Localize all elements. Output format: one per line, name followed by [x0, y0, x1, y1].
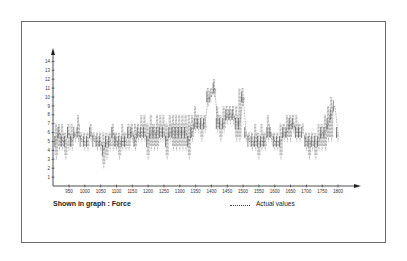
x-tick-label: 1200: [143, 189, 154, 194]
chart-caption: Shown in graph : Force: [53, 200, 131, 207]
x-tick-label: 1550: [254, 189, 265, 194]
y-tick-label: 11: [45, 86, 50, 91]
y-axis-arrow-icon: [51, 48, 55, 55]
y-tick-label: 9: [47, 104, 50, 109]
x-tick-label: 1750: [317, 189, 328, 194]
force-chart: 1234567891011121314950100010501100115012…: [0, 0, 407, 261]
y-tick-label: 10: [45, 95, 51, 100]
x-tick-label: 1700: [301, 189, 312, 194]
x-tick-label: 1450: [222, 189, 233, 194]
x-tick-label: 1050: [96, 189, 107, 194]
x-tick-label: 1100: [112, 189, 122, 194]
y-tick-label: 12: [45, 77, 51, 82]
x-tick-label: 1150: [127, 189, 137, 194]
x-tick-label: 950: [65, 189, 73, 194]
x-tick-label: 1000: [80, 189, 91, 194]
y-tick-label: 14: [45, 59, 51, 64]
x-tick-label: 1250: [159, 189, 170, 194]
x-tick-label: 1650: [286, 189, 297, 194]
y-tick-label: 13: [45, 68, 51, 73]
y-tick-label: 7: [47, 121, 50, 126]
x-tick-label: 1350: [191, 189, 202, 194]
legend-label: Actual values: [256, 200, 295, 207]
y-tick-label: 6: [47, 130, 50, 135]
x-tick-label: 1400: [206, 189, 217, 194]
chart-legend: Actual values: [230, 200, 295, 207]
y-tick-label: 2: [47, 166, 50, 171]
y-tick-label: 3: [47, 157, 50, 162]
y-tick-label: 8: [47, 112, 50, 117]
actual-values-line: [56, 88, 338, 150]
x-tick-label: 1600: [270, 189, 281, 194]
y-tick-label: 5: [47, 139, 50, 144]
legend-dotted-line-icon: [230, 205, 250, 206]
x-tick-label: 1500: [238, 189, 249, 194]
x-tick-label: 1800: [333, 189, 344, 194]
y-tick-label: 1: [47, 175, 50, 180]
y-tick-label: 4: [47, 148, 50, 153]
x-tick-label: 1300: [175, 189, 186, 194]
x-axis-arrow-icon: [354, 184, 361, 188]
